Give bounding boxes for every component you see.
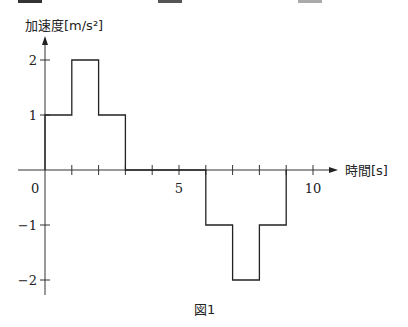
x-axis-label: 時間[s] bbox=[345, 163, 388, 178]
y-tick-label: −1 bbox=[18, 218, 37, 233]
x-tick-label: 0 bbox=[31, 181, 39, 196]
x-tick-label: 5 bbox=[175, 181, 183, 196]
x-tick-label: 10 bbox=[305, 181, 322, 196]
y-tick-label: −2 bbox=[18, 273, 37, 288]
y-axis-arrow-icon bbox=[42, 36, 48, 45]
acceleration-time-chart: 0510 21−1−2 加速度[m/s²] 時間[s] 図1 bbox=[0, 0, 408, 327]
y-axis-label: 加速度[m/s²] bbox=[25, 18, 103, 33]
figure-caption: 図1 bbox=[194, 302, 215, 317]
axes bbox=[18, 36, 338, 295]
y-tick-label: 2 bbox=[29, 53, 37, 68]
x-axis-arrow-icon bbox=[329, 167, 338, 173]
y-tick-label: 1 bbox=[29, 108, 37, 123]
